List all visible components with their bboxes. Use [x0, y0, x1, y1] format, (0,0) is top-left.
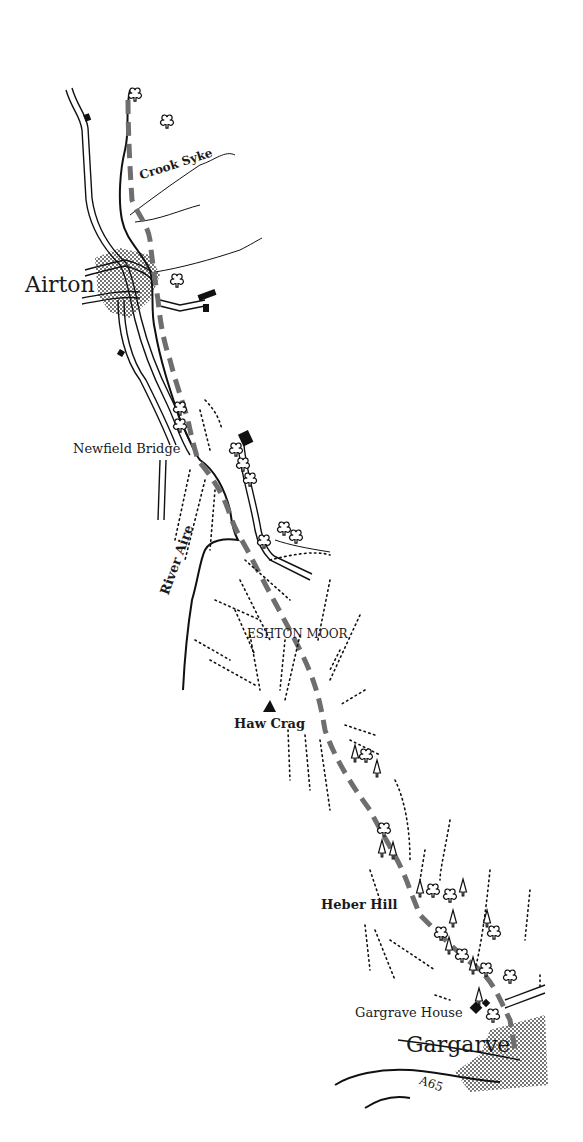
label-airton: Airton — [25, 274, 95, 296]
club-tree-icon — [278, 522, 291, 535]
club-tree-icon — [504, 970, 517, 983]
club-tree-icon — [480, 963, 493, 976]
club-tree-icon — [487, 1009, 500, 1022]
trees — [129, 88, 517, 1022]
label-gargarve: Gargarve — [406, 1034, 510, 1056]
conifer-tree-icon — [352, 745, 359, 762]
route-map — [0, 0, 583, 1142]
conifer-tree-icon — [379, 840, 386, 857]
club-tree-icon — [230, 443, 243, 456]
square-icon — [482, 999, 490, 1007]
conifer-tree-icon — [374, 760, 381, 777]
river-aire — [120, 90, 500, 1108]
label-haw-crag: Haw Crag — [234, 717, 305, 730]
roads — [66, 88, 545, 1060]
triangle-icon — [263, 700, 276, 712]
club-tree-icon — [427, 884, 440, 897]
club-tree-icon — [290, 530, 303, 543]
conifer-tree-icon — [484, 910, 491, 927]
label-gargrave-house: Gargrave House — [355, 1006, 463, 1019]
conifer-tree-icon — [450, 910, 457, 927]
conifer-tree-icon — [417, 880, 424, 897]
label-heber-hill: Heber Hill — [321, 898, 397, 911]
square-icon — [117, 349, 125, 357]
buildings — [83, 113, 490, 1014]
square-icon — [198, 289, 217, 301]
club-tree-icon — [456, 949, 469, 962]
square-icon — [470, 1001, 483, 1014]
square-icon — [203, 304, 209, 312]
club-tree-icon — [444, 889, 457, 902]
club-tree-icon — [161, 115, 174, 128]
club-tree-icon — [171, 274, 184, 287]
label-eshton-moor: ESHTON MOOR — [247, 628, 348, 640]
label-newfield-bridge: Newfield Bridge — [73, 442, 180, 455]
club-tree-icon — [488, 926, 501, 939]
club-tree-icon — [378, 823, 391, 836]
club-tree-icon — [360, 749, 373, 762]
club-tree-icon — [129, 88, 142, 101]
conifer-tree-icon — [460, 879, 467, 896]
